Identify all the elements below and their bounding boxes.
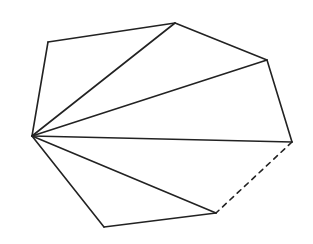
edge-ab — [32, 42, 48, 136]
edge-ef-dashed — [216, 142, 292, 213]
diagonal-ae — [32, 136, 292, 142]
diagonal-ac — [32, 23, 175, 136]
edge-cd — [175, 23, 267, 60]
heptagon-diagram — [0, 0, 313, 244]
edge-bc — [48, 23, 175, 42]
polygon-edges — [32, 23, 292, 227]
diagonal-ad — [32, 60, 267, 136]
edge-de — [267, 60, 292, 142]
diagonal-af — [32, 136, 216, 213]
edge-fg — [104, 213, 216, 227]
edge-ga — [32, 136, 104, 227]
